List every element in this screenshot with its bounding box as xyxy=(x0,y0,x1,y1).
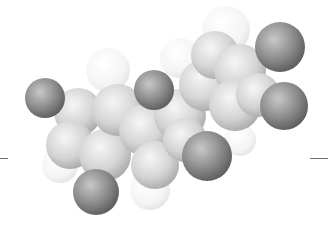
dark-atom-sphere xyxy=(255,22,305,72)
molecule-figure xyxy=(0,0,328,229)
dark-atom-sphere xyxy=(25,78,65,118)
space-filling-molecule-model xyxy=(0,0,328,229)
right-rule-line xyxy=(310,158,328,159)
dark-atom-sphere xyxy=(73,169,119,215)
left-rule-line xyxy=(0,158,8,159)
dark-atom-sphere xyxy=(260,82,308,130)
dark-atom-sphere xyxy=(182,131,232,181)
dark-atom-sphere xyxy=(134,70,174,110)
